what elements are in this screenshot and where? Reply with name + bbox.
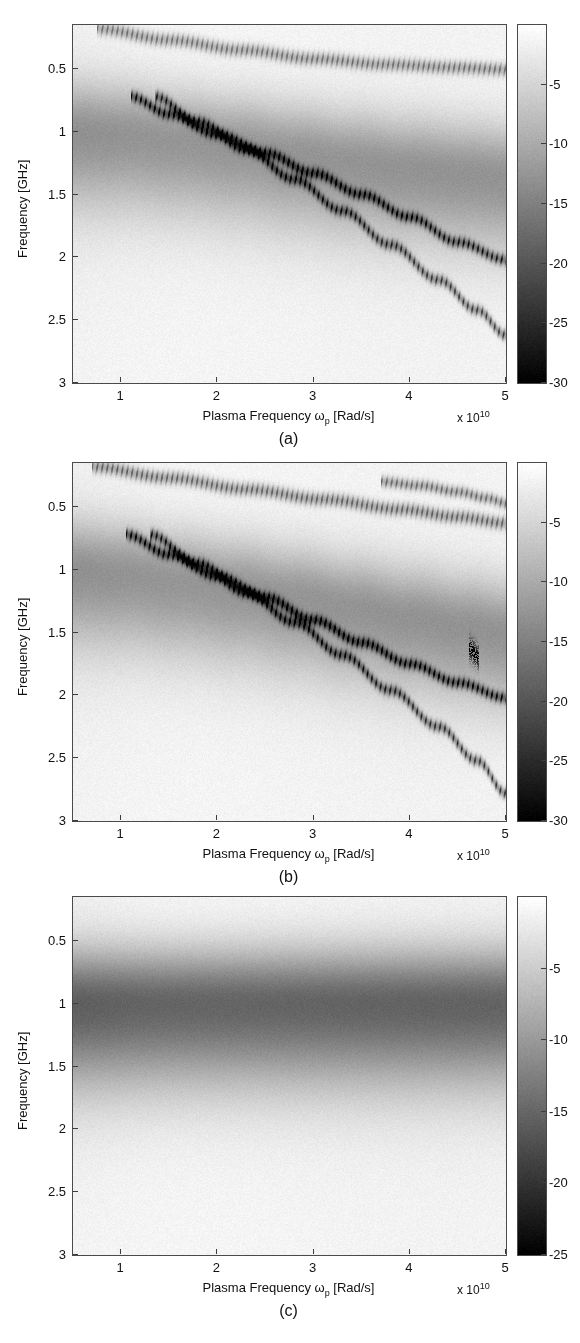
x-tick-label-b-0: 1 — [116, 827, 123, 840]
colorbar-tick-label-b-1: -10 — [549, 575, 568, 588]
x-axis-label-omega-subscript-b: p — [325, 854, 330, 864]
x-tick-label-c-3: 4 — [405, 1261, 412, 1274]
x-tick-a-0 — [120, 377, 121, 382]
figure-root: 0.511.522.5312345Frequency [GHz]Plasma F… — [0, 0, 580, 1343]
colorbar-tick-label-b-3: -20 — [549, 694, 568, 707]
y-tick-c-2 — [73, 1066, 78, 1067]
x-tick-b-2 — [313, 815, 314, 820]
heatmap-plot-b — [72, 462, 507, 822]
colorbar-b — [517, 462, 547, 822]
y-tick-c-5 — [73, 1254, 78, 1255]
colorbar-tick-label-a-4: -25 — [549, 316, 568, 329]
x-tick-label-b-1: 2 — [213, 827, 220, 840]
x-tick-b-1 — [216, 815, 217, 820]
y-tick-label-a-3: 2 — [24, 250, 66, 263]
x-tick-label-b-3: 4 — [405, 827, 412, 840]
colorbar-tick-label-a-2: -15 — [549, 197, 568, 210]
x-tick-a-4 — [505, 377, 506, 382]
y-tick-a-4 — [73, 319, 78, 320]
x-axis-label-omega-subscript-a: p — [325, 416, 330, 426]
x-axis-multiplier-base-b: x 10 — [457, 849, 480, 863]
panel-a: 0.511.522.5312345Frequency [GHz]Plasma F… — [0, 0, 580, 1343]
y-tick-label-c-2: 1.5 — [24, 1059, 66, 1072]
x-tick-label-c-1: 2 — [213, 1261, 220, 1274]
colorbar-tick-c-3 — [541, 1182, 546, 1183]
x-axis-label-suffix-c: [Rad/s] — [330, 1280, 375, 1295]
x-axis-label-omega-b: ω — [315, 846, 325, 861]
colorbar-tick-a-3 — [541, 263, 546, 264]
x-tick-label-b-4: 5 — [501, 827, 508, 840]
x-tick-label-c-2: 3 — [309, 1261, 316, 1274]
colorbar-tick-label-b-4: -25 — [549, 754, 568, 767]
y-tick-label-b-2: 1.5 — [24, 625, 66, 638]
colorbar-tick-label-b-0: -5 — [549, 515, 561, 528]
y-tick-a-5 — [73, 382, 78, 383]
x-axis-label-omega-c: ω — [315, 1280, 325, 1295]
y-tick-a-3 — [73, 256, 78, 257]
colorbar-tick-label-c-0: -5 — [549, 961, 561, 974]
colorbar-tick-b-3 — [541, 701, 546, 702]
colorbar-tick-c-2 — [541, 1111, 546, 1112]
y-tick-b-1 — [73, 569, 78, 570]
x-tick-c-0 — [120, 1249, 121, 1254]
colorbar-tick-c-0 — [541, 968, 546, 969]
y-tick-label-c-0: 0.5 — [24, 933, 66, 946]
y-tick-c-1 — [73, 1003, 78, 1004]
x-tick-label-b-2: 3 — [309, 827, 316, 840]
panel-b: 0.511.522.5312345Frequency [GHz]Plasma F… — [0, 0, 580, 1343]
colorbar-canvas-c — [518, 897, 546, 1255]
y-axis-label-a: Frequency [GHz] — [15, 160, 30, 258]
panel-caption-b: (b) — [279, 868, 299, 886]
y-tick-b-0 — [73, 506, 78, 507]
x-axis-multiplier-b: x 1010 — [457, 847, 490, 863]
y-tick-b-3 — [73, 694, 78, 695]
y-axis-label-b: Frequency [GHz] — [15, 598, 30, 696]
y-tick-b-2 — [73, 632, 78, 633]
colorbar-tick-b-2 — [541, 641, 546, 642]
y-tick-label-a-5: 3 — [24, 376, 66, 389]
x-axis-multiplier-exponent-b: 10 — [480, 847, 490, 857]
x-tick-a-1 — [216, 377, 217, 382]
x-axis-multiplier-a: x 1010 — [457, 409, 490, 425]
colorbar-tick-b-0 — [541, 522, 546, 523]
x-tick-c-2 — [313, 1249, 314, 1254]
y-tick-a-0 — [73, 68, 78, 69]
x-tick-label-c-4: 5 — [501, 1261, 508, 1274]
colorbar-tick-a-2 — [541, 203, 546, 204]
y-tick-label-c-3: 2 — [24, 1122, 66, 1135]
y-tick-label-a-0: 0.5 — [24, 61, 66, 74]
y-tick-b-4 — [73, 757, 78, 758]
y-tick-label-a-1: 1 — [24, 124, 66, 137]
x-axis-multiplier-base-c: x 10 — [457, 1283, 480, 1297]
y-tick-c-3 — [73, 1128, 78, 1129]
y-tick-label-b-0: 0.5 — [24, 499, 66, 512]
heatmap-plot-a — [72, 24, 507, 384]
y-tick-label-a-4: 2.5 — [24, 313, 66, 326]
y-tick-label-a-2: 1.5 — [24, 187, 66, 200]
colorbar-tick-b-1 — [541, 581, 546, 582]
x-axis-label-b: Plasma Frequency ωp [Rad/s] — [72, 846, 505, 864]
y-tick-b-5 — [73, 820, 78, 821]
panel-c: 0.511.522.5312345Frequency [GHz]Plasma F… — [0, 0, 580, 1343]
colorbar-tick-c-1 — [541, 1039, 546, 1040]
colorbar-tick-label-c-4: -25 — [549, 1248, 568, 1261]
y-tick-label-b-4: 2.5 — [24, 751, 66, 764]
x-axis-label-prefix-a: Plasma Frequency — [203, 408, 315, 423]
x-axis-multiplier-c: x 1010 — [457, 1281, 490, 1297]
colorbar-canvas-b — [518, 463, 546, 821]
colorbar-tick-b-5 — [541, 820, 546, 821]
heatmap-canvas-c — [73, 897, 506, 1255]
heatmap-canvas-b — [73, 463, 506, 821]
x-tick-c-4 — [505, 1249, 506, 1254]
x-axis-label-c: Plasma Frequency ωp [Rad/s] — [72, 1280, 505, 1298]
panel-caption-a: (a) — [279, 430, 299, 448]
colorbar-tick-a-5 — [541, 382, 546, 383]
y-tick-label-b-3: 2 — [24, 688, 66, 701]
x-tick-label-a-2: 3 — [309, 389, 316, 402]
colorbar-tick-a-0 — [541, 84, 546, 85]
colorbar-tick-label-a-3: -20 — [549, 256, 568, 269]
colorbar-tick-label-a-1: -10 — [549, 137, 568, 150]
colorbar-tick-label-b-2: -15 — [549, 635, 568, 648]
colorbar-tick-a-4 — [541, 322, 546, 323]
x-tick-b-4 — [505, 815, 506, 820]
